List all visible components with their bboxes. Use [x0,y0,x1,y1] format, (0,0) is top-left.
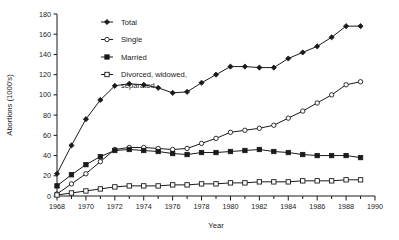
data-point-open-square-marker [286,180,290,184]
x-tick-label: 1972 [107,202,123,211]
data-point-open-square-marker [214,182,218,186]
chart-container: 020406080100120140160180 196819701972197… [0,0,399,240]
data-point-filled-square-marker [329,153,333,157]
data-point-filled-square-marker [170,151,174,155]
data-point-filled-square-marker [98,154,102,158]
data-point-filled-square-marker [105,55,109,59]
data-point-open-square-marker [55,193,59,197]
data-point-open-square-marker [142,184,146,188]
x-tick-label: 1978 [194,202,210,211]
data-point-filled-square-marker [315,153,319,157]
data-point-open-circle-marker [315,101,319,105]
data-point-open-square-marker [243,181,247,185]
data-point-open-circle-marker [257,126,261,130]
y-tick-label: 20 [43,171,51,180]
data-point-filled-square-marker [228,149,232,153]
data-point-open-square-marker [98,187,102,191]
data-point-open-square-marker [199,182,203,186]
data-point-filled-square-marker [199,150,203,154]
legend-label-continuation: separated [121,81,155,90]
data-point-filled-square-marker [156,149,160,153]
y-axis-title: Abortions (1000's) [5,74,14,136]
data-point-open-circle-marker [358,80,362,84]
data-point-filled-square-marker [286,150,290,154]
abortions-by-marital-status-line-chart: 020406080100120140160180 196819701972197… [0,0,399,240]
data-point-filled-square-marker [301,152,305,156]
data-point-filled-square-marker [344,153,348,157]
data-point-filled-square-marker [127,147,131,151]
x-tick-label: 1986 [309,202,325,211]
data-point-filled-square-marker [113,148,117,152]
data-point-open-square-marker [344,178,348,182]
data-point-open-square-marker [105,72,109,76]
data-point-open-square-marker [272,180,276,184]
y-tick-label: 140 [39,50,51,59]
x-axis-title: Year [208,221,224,230]
x-tick-label: 1980 [222,202,238,211]
data-point-open-square-marker [228,181,232,185]
data-point-open-circle-marker [344,83,348,87]
data-point-open-square-marker [156,184,160,188]
x-tick-label: 1990 [367,202,383,211]
y-tick-label: 120 [39,70,51,79]
data-point-open-square-marker [329,179,333,183]
x-tick-label: 1970 [78,202,94,211]
data-point-filled-square-marker [214,150,218,154]
data-point-open-circle-marker [329,93,333,97]
legend-label: Divorced, widowed, [121,70,187,79]
data-point-open-circle-marker [105,37,109,41]
y-tick-label: 180 [39,10,51,19]
data-point-open-square-marker [69,191,73,195]
legend-label: Single [121,35,142,44]
data-point-open-square-marker [257,180,261,184]
data-point-filled-square-marker [142,148,146,152]
data-point-open-circle-marker [243,128,247,132]
x-tick-label: 1976 [165,202,181,211]
data-point-open-circle-marker [214,136,218,140]
data-point-open-circle-marker [84,172,88,176]
data-point-open-circle-marker [228,130,232,134]
data-point-filled-square-marker [55,184,59,188]
y-tick-label: 100 [39,90,51,99]
x-tick-label: 1988 [338,202,354,211]
data-point-filled-square-marker [272,149,276,153]
y-tick-label: 60 [43,131,51,140]
data-point-open-square-marker [315,179,319,183]
data-point-open-circle-marker [199,141,203,145]
x-tick-label: 1974 [136,202,152,211]
y-tick-label: 80 [43,111,51,120]
x-tick-label: 1968 [49,202,65,211]
data-point-open-square-marker [358,178,362,182]
data-point-filled-square-marker [257,147,261,151]
data-point-filled-square-marker [243,148,247,152]
x-tick-label: 1982 [251,202,267,211]
data-point-open-square-marker [301,179,305,183]
y-tick-label: 160 [39,30,51,39]
data-point-open-circle-marker [286,116,290,120]
data-point-filled-square-marker [69,173,73,177]
data-point-open-square-marker [127,184,131,188]
data-point-open-circle-marker [185,146,189,150]
data-point-filled-square-marker [185,152,189,156]
legend-label: Married [121,53,147,62]
data-point-open-square-marker [170,183,174,187]
y-tick-label: 40 [43,151,51,160]
data-point-filled-square-marker [84,162,88,166]
data-point-open-square-marker [185,183,189,187]
data-point-open-circle-marker [272,123,276,127]
y-tick-label: 0 [47,192,51,201]
legend-label: Total [121,18,137,27]
x-tick-label: 1984 [280,202,296,211]
data-point-open-circle-marker [301,109,305,113]
data-point-filled-square-marker [358,155,362,159]
data-point-open-square-marker [84,189,88,193]
data-point-open-circle-marker [98,159,102,163]
data-point-open-square-marker [113,185,117,189]
data-point-open-circle-marker [69,182,73,186]
